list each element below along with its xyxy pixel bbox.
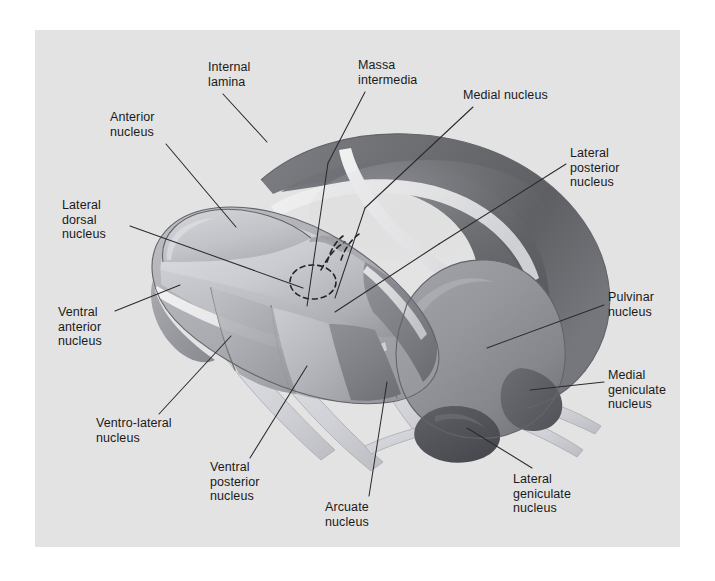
- label-ventral-posterior: Ventralposteriornucleus: [210, 460, 260, 504]
- label-ventro-lateral: Ventro-lateralnucleus: [96, 416, 172, 445]
- label-lateral-dorsal: Lateraldorsalnucleus: [62, 198, 106, 242]
- label-lateral-geniculate: Lateralgeniculatenucleus: [513, 472, 571, 516]
- label-ventral-anterior: Ventralanteriornucleus: [58, 305, 102, 349]
- label-pulvinar-nucleus: Pulvinarnucleus: [608, 290, 654, 319]
- thalamus-illustration: [35, 30, 680, 547]
- figure-page: Internallamina Massaintermedia Medial nu…: [0, 0, 715, 581]
- thalamus-body: [151, 134, 610, 471]
- label-arcuate-nucleus: Arcuatenucleus: [325, 500, 369, 529]
- label-internal-lamina: Internallamina: [208, 60, 251, 89]
- label-medial-geniculate: Medialgeniculatenucleus: [608, 368, 666, 412]
- anatomical-figure-panel: Internallamina Massaintermedia Medial nu…: [35, 30, 680, 547]
- label-massa-intermedia: Massaintermedia: [358, 58, 417, 87]
- leader-internal-lamina: [223, 94, 267, 142]
- label-lateral-posterior: Lateralposteriornucleus: [570, 146, 620, 190]
- label-medial-nucleus: Medial nucleus: [463, 88, 548, 103]
- label-anterior-nucleus: Anteriornucleus: [110, 110, 155, 139]
